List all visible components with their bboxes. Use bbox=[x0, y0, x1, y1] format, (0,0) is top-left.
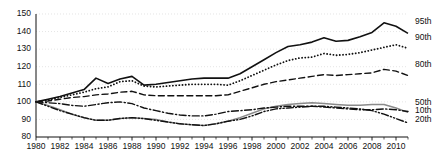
series-label-80th: 80th bbox=[415, 59, 432, 69]
series-label-90th: 90th bbox=[415, 32, 432, 42]
y-tick-label-80: 80 bbox=[22, 131, 32, 141]
chart-background bbox=[0, 0, 444, 164]
x-tick-label-2004: 2004 bbox=[315, 141, 334, 151]
x-tick-label-1990: 1990 bbox=[147, 141, 166, 151]
x-tick-label-1980: 1980 bbox=[27, 141, 46, 151]
x-tick-label-2008: 2008 bbox=[363, 141, 382, 151]
y-tick-label-100: 100 bbox=[17, 96, 31, 106]
x-tick-label-1982: 1982 bbox=[51, 141, 70, 151]
x-tick-label-2010: 2010 bbox=[387, 141, 406, 151]
x-tick-label-1984: 1984 bbox=[75, 141, 94, 151]
y-tick-label-140: 140 bbox=[17, 26, 31, 36]
series-label-20th: 20th bbox=[415, 114, 432, 124]
y-tick-label-110: 110 bbox=[17, 79, 31, 89]
y-tick-label-150: 150 bbox=[17, 8, 31, 18]
x-tick-label-1988: 1988 bbox=[123, 141, 142, 151]
chart-canvas: 8090100110120130140150 19801982198419861… bbox=[0, 0, 444, 164]
x-tick-label-1998: 1998 bbox=[243, 141, 262, 151]
x-tick-label-1986: 1986 bbox=[99, 141, 118, 151]
y-tick-label-130: 130 bbox=[17, 43, 31, 53]
x-tick-label-2006: 2006 bbox=[339, 141, 358, 151]
x-tick-label-2002: 2002 bbox=[291, 141, 310, 151]
x-tick-label-1994: 1994 bbox=[195, 141, 214, 151]
x-tick-label-2000: 2000 bbox=[267, 141, 286, 151]
percentile-index-line-chart: 8090100110120130140150 19801982198419861… bbox=[0, 0, 444, 164]
x-tick-label-1992: 1992 bbox=[171, 141, 190, 151]
y-tick-label-120: 120 bbox=[17, 61, 31, 71]
x-tick-label-1996: 1996 bbox=[219, 141, 238, 151]
y-tick-label-90: 90 bbox=[22, 114, 32, 124]
series-label-95th: 95th bbox=[415, 16, 432, 26]
